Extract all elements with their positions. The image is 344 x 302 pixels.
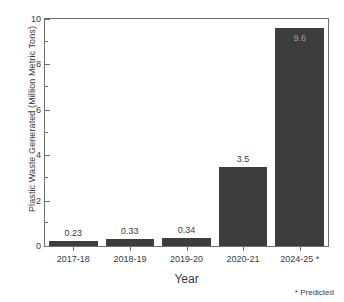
x-tick-label: 2018-19	[113, 254, 146, 264]
predicted-footnote: * Predicted	[295, 288, 334, 297]
y-tick-label: 2	[36, 196, 41, 206]
y-tick-mark	[45, 246, 50, 247]
x-axis-title: Year	[44, 272, 329, 286]
y-minor-tick-mark	[45, 86, 48, 87]
plot-area: 0246810 2017-182018-192019-202020-212024…	[44, 18, 329, 247]
bar-value-label: 3.5	[237, 154, 250, 164]
y-tick-label: 0	[36, 241, 41, 251]
y-tick-mark	[45, 64, 50, 65]
bar-value-label: 0.33	[121, 226, 139, 236]
bar-value-label: 0.23	[65, 228, 83, 238]
y-minor-tick-mark	[45, 132, 48, 133]
y-tick-mark	[45, 155, 50, 156]
bar-2017-18: 0.23	[49, 241, 98, 246]
y-tick-mark	[45, 201, 50, 202]
x-tick-label: 2024-25 *	[280, 254, 319, 264]
y-minor-tick-mark	[45, 222, 48, 223]
x-tick-label: 2019-20	[170, 254, 203, 264]
bar-value-label: 0.34	[178, 225, 196, 235]
y-minor-tick-mark	[45, 177, 48, 178]
y-tick-label: 8	[36, 59, 41, 69]
bar-2018-19: 0.33	[106, 239, 155, 246]
x-tick-mark	[130, 246, 131, 251]
x-tick-label: 2017-18	[57, 254, 90, 264]
y-tick-mark	[45, 19, 50, 20]
bar-2020-21: 3.5	[219, 167, 268, 246]
x-tick-mark	[73, 246, 74, 251]
bar-2024-25: 9.6	[275, 28, 324, 246]
x-tick-mark	[300, 246, 301, 251]
x-tick-mark	[187, 246, 188, 251]
bar-2019-20: 0.34	[162, 238, 211, 246]
bar-value-label: 9.6	[293, 33, 306, 43]
x-tick-mark	[243, 246, 244, 251]
y-tick-mark	[45, 110, 50, 111]
chart-figure: Plastic Waste Generated (Million Metric …	[0, 0, 344, 302]
x-tick-label: 2020-21	[227, 254, 260, 264]
y-minor-tick-mark	[45, 41, 48, 42]
y-tick-label: 10	[31, 14, 41, 24]
y-tick-label: 4	[36, 150, 41, 160]
y-tick-label: 6	[36, 105, 41, 115]
